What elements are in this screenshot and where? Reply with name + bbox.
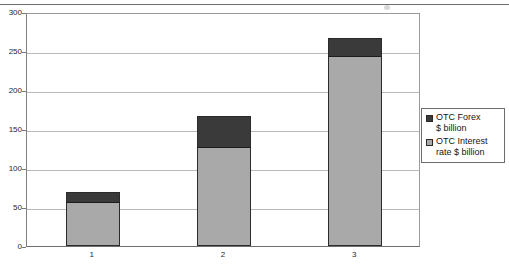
bar-segment-otc-interest-rate[interactable] <box>197 148 251 246</box>
y-axis-tick-label: 150 <box>9 126 22 134</box>
bar-segment-otc-interest-rate[interactable] <box>328 57 382 246</box>
chart-container: 300250200150100500 123 OTC Forex $ billi… <box>0 0 509 269</box>
legend-item-otc-interest-rate[interactable]: OTC Interest rate $ billion <box>426 136 500 158</box>
y-axis: 300250200150100500 <box>0 0 26 260</box>
y-axis-tick-mark <box>22 247 26 248</box>
x-axis-category-label: 2 <box>196 250 250 260</box>
y-axis-tick-label: 50 <box>13 204 22 212</box>
legend-swatch-otc-forex-icon <box>426 115 433 122</box>
x-axis-labels: 123 <box>26 250 420 266</box>
bar-segment-otc-forex[interactable] <box>328 38 382 58</box>
bar-segment-otc-forex[interactable] <box>66 192 120 203</box>
legend-item-otc-forex[interactable]: OTC Forex $ billion <box>426 112 500 134</box>
x-axis-category-label: 1 <box>65 250 119 260</box>
bar-column[interactable] <box>66 192 120 246</box>
legend-swatch-otc-interest-rate-icon <box>426 139 433 146</box>
y-axis-tick-label: 300 <box>9 9 22 17</box>
chart-legend[interactable]: OTC Forex $ billion OTC Interest rate $ … <box>421 108 505 163</box>
bar-column[interactable] <box>197 116 251 246</box>
bar-segment-otc-forex[interactable] <box>197 116 251 148</box>
legend-label-otc-interest-rate: OTC Interest rate $ billion <box>436 136 488 158</box>
plot-area <box>26 13 420 247</box>
y-axis-tick-label: 200 <box>9 87 22 95</box>
y-axis-tick-label: 100 <box>9 165 22 173</box>
y-axis-tick-label: 250 <box>9 48 22 56</box>
bars-group <box>27 14 419 246</box>
x-axis-category-label: 3 <box>327 250 381 260</box>
scan-artifact-mark <box>384 5 390 10</box>
legend-label-otc-forex: OTC Forex $ billion <box>436 112 481 134</box>
page-rule-line <box>0 4 509 5</box>
bar-column[interactable] <box>328 38 382 246</box>
bar-segment-otc-interest-rate[interactable] <box>66 203 120 246</box>
